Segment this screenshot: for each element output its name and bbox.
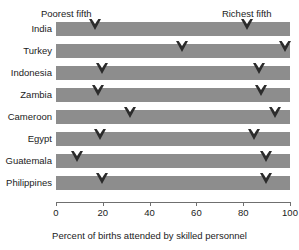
marker-poorest-fifth — [124, 107, 136, 118]
bar-row — [56, 154, 290, 168]
marker-poorest-fifth — [176, 41, 188, 52]
category-label-cameroon: Cameroon — [0, 112, 52, 122]
tick-0 — [56, 202, 57, 206]
tick-label-20: 20 — [88, 207, 118, 218]
marker-poorest-fifth — [92, 85, 104, 96]
tick-label-80: 80 — [228, 207, 258, 218]
x-axis-title: Percent of births attended by skilled pe… — [0, 230, 299, 241]
category-label-egypt: Egypt — [0, 134, 52, 144]
marker-richest-fifth — [279, 41, 291, 52]
tick-80 — [243, 202, 244, 206]
marker-richest-fifth — [260, 151, 272, 162]
marker-richest-fifth — [241, 19, 253, 30]
tick-label-100: 100 — [275, 207, 299, 218]
marker-richest-fifth — [269, 107, 281, 118]
marker-poorest-fifth — [96, 173, 108, 184]
x-axis-line — [56, 202, 290, 203]
bar-row — [56, 176, 290, 190]
annotation-poorest-fifth-label: Poorest fifth — [41, 8, 92, 19]
category-label-india: India — [0, 24, 52, 34]
tick-label-0: 0 — [41, 207, 71, 218]
marker-richest-fifth — [255, 85, 267, 96]
tick-40 — [150, 202, 151, 206]
category-label-turkey: Turkey — [0, 46, 52, 56]
category-label-guatemala: Guatemala — [0, 156, 52, 166]
clipped-top-text — [0, 0, 299, 6]
category-label-zambia: Zambia — [0, 90, 52, 100]
category-label-philippines: Philippines — [0, 178, 52, 188]
marker-richest-fifth — [253, 63, 265, 74]
marker-poorest-fifth — [71, 151, 83, 162]
marker-poorest-fifth — [94, 129, 106, 140]
tick-label-60: 60 — [181, 207, 211, 218]
annotation-poorest-fifth: Poorest fifth — [41, 8, 92, 19]
marker-poorest-fifth — [96, 63, 108, 74]
marker-richest-fifth — [248, 129, 260, 140]
tick-label-40: 40 — [135, 207, 165, 218]
tick-100 — [290, 202, 291, 206]
tick-20 — [103, 202, 104, 206]
tick-60 — [196, 202, 197, 206]
chart-root: Poorest fifth Richest fifth IndiaTurkeyI… — [0, 0, 299, 250]
marker-richest-fifth — [260, 173, 272, 184]
marker-poorest-fifth — [89, 19, 101, 30]
bar-row — [56, 110, 290, 124]
plot-area — [56, 22, 290, 202]
bar-row — [56, 44, 290, 58]
category-label-indonesia: Indonesia — [0, 68, 52, 78]
